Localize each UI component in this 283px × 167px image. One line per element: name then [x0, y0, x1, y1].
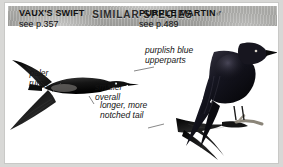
species-page-ref-purple-martin[interactable]: see p.489: [139, 19, 223, 29]
leader-line-purplish: [134, 67, 154, 71]
annotation-purplish-blue-upperparts: purplish blue upperparts: [145, 46, 193, 65]
annotation-line-2: upperparts: [145, 56, 193, 66]
annotation-paler-rump: paler rump: [29, 69, 48, 88]
annotation-line-2: rump: [29, 79, 48, 89]
species-name-vauxs-swift: VAUX'S SWIFT: [19, 8, 84, 18]
species-name-purple-martin: PURPLE MARTIN♂: [139, 8, 223, 18]
leader-line-notched: [148, 124, 164, 128]
male-symbol-icon: ♂: [216, 8, 223, 18]
similar-species-panel: SIMILAR SPECIES: [4, 2, 279, 164]
annotation-line-2: notched tail: [100, 111, 147, 121]
species-block-purple-martin: PURPLE MARTIN♂ see p.489: [139, 8, 223, 29]
annotation-longer-more-notched-tail: longer, more notched tail: [100, 101, 147, 120]
species-page-ref-vauxs-swift[interactable]: see p.357: [19, 19, 84, 29]
species-name-text: PURPLE MARTIN: [139, 8, 216, 18]
species-block-vauxs-swift: VAUX'S SWIFT see p.357: [19, 8, 84, 29]
leader-line-smaller: [89, 96, 94, 104]
illustration-area: [8, 26, 277, 162]
